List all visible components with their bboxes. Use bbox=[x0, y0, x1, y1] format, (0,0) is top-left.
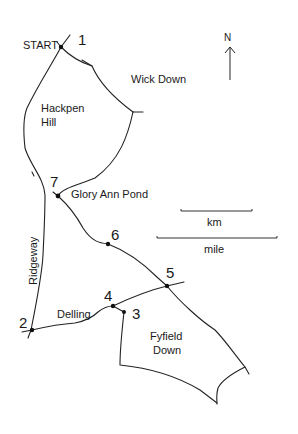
waypoint-2-label: 2 bbox=[19, 314, 27, 331]
waypoint-7-dot[interactable] bbox=[56, 194, 61, 199]
place-glory-ann-pond: Glory Ann Pond bbox=[71, 188, 148, 200]
track-wickdown-to-7 bbox=[58, 112, 133, 196]
waypoint-4-dot[interactable] bbox=[111, 304, 115, 308]
route-map: START 1 2 3 4 5 6 7 Wick Down Hackpen Hi… bbox=[0, 0, 298, 434]
place-wick-down: Wick Down bbox=[131, 73, 186, 85]
north-label: N bbox=[224, 32, 231, 43]
waypoint-start-dot[interactable] bbox=[59, 45, 63, 49]
place-fyfield-line2: Down bbox=[153, 344, 181, 356]
ridgeway-arrow bbox=[32, 172, 34, 176]
waypoint-3-label: 3 bbox=[132, 305, 140, 322]
waypoint-7-label: 7 bbox=[50, 173, 58, 190]
start-label: START bbox=[23, 39, 58, 51]
track-7-to-5 bbox=[53, 192, 167, 286]
north-arrow-icon: N bbox=[224, 32, 235, 80]
place-hackpen-line2: Hill bbox=[41, 116, 56, 128]
place-hackpen-line1: Hackpen bbox=[41, 102, 84, 114]
track-fyfield-spur bbox=[217, 367, 245, 404]
place-delling: Delling bbox=[57, 308, 91, 320]
scale-mile-label: mile bbox=[204, 243, 224, 255]
waypoint-1-label: 1 bbox=[78, 31, 86, 48]
waypoint-2-dot[interactable] bbox=[30, 328, 34, 332]
scale-bar-mile: mile bbox=[157, 236, 277, 255]
waypoint-6-label: 6 bbox=[111, 226, 119, 243]
waypoint-6-dot[interactable] bbox=[106, 242, 110, 246]
place-ridgeway: Ridgeway bbox=[27, 236, 39, 285]
waypoint-5-label: 5 bbox=[166, 264, 174, 281]
ridgeway-track bbox=[24, 47, 61, 338]
start-spur bbox=[61, 35, 70, 47]
waypoint-5-dot[interactable] bbox=[165, 284, 169, 288]
place-fyfield-line1: Fyfield bbox=[150, 330, 182, 342]
waypoint-4-label: 4 bbox=[104, 287, 112, 304]
scale-bar-km: km bbox=[181, 209, 252, 228]
scale-km-label: km bbox=[207, 216, 222, 228]
waypoint-3-dot[interactable] bbox=[122, 310, 126, 314]
